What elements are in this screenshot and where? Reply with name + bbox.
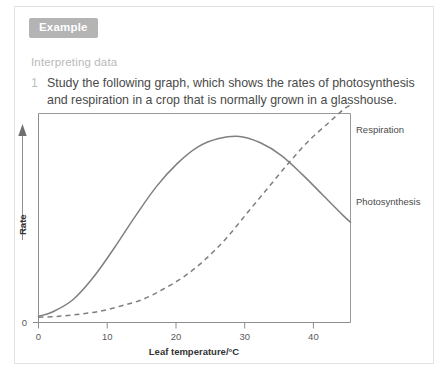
example-card: Example Interpreting data 1 Study the fo…	[14, 6, 434, 364]
question-number: 1	[31, 75, 47, 92]
question-text: Study the following graph, which shows t…	[47, 75, 431, 109]
section-heading: Interpreting data	[31, 56, 117, 68]
question-item: 1 Study the following graph, which shows…	[31, 75, 431, 109]
screenshot-root: Example Interpreting data 1 Study the fo…	[0, 0, 448, 380]
example-badge: Example	[29, 18, 98, 38]
